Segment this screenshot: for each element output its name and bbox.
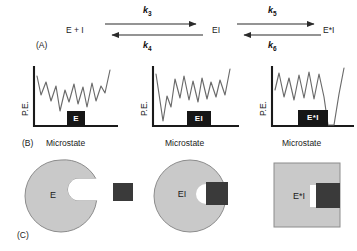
energy-landscape-ei: P.E. EI Microstate [129,64,241,150]
inhibitor-square-bound-tight [316,183,340,208]
cartoon-e-star-i-complex: E*I [272,161,346,231]
rate-constant-k3: k3 [143,5,152,17]
equilibrium-arrows-step-1 [104,20,204,42]
cartoon-ei-complex: EI [152,158,232,234]
equilibrium-arrows-step-2 [236,20,322,42]
plot-xlabel-e: Microstate [46,138,85,148]
rate-constant-k4: k4 [143,40,152,52]
inhibitor-square-bound-partial [206,182,228,205]
panel-c-structural-cartoons: (C) E /* label text injected below from … [0,150,357,251]
state-chip-ei: EI [187,111,211,126]
figure-root: (A) E + I EI E*I k3 k4 k5 k6 [0,0,357,251]
panel-label-a: (A) [36,40,47,50]
energy-landscape-e-star-i: P.E. E*I Microstate [248,64,356,150]
state-chip-e: E [67,111,85,126]
energy-landscape-e: P.E. E Microstate [10,64,120,150]
plot-xlabel-ei: Microstate [165,138,204,148]
cartoon-label-e-star-i: E*I [293,191,305,201]
cartoon-label-ei: EI [178,189,187,199]
species-label-e-plus-i: E + I [66,25,84,35]
panel-a-reaction-scheme: (A) E + I EI E*I k3 k4 k5 k6 [0,0,357,60]
cartoon-label-e: E [50,190,56,200]
rate-constant-k5: k5 [268,5,277,17]
plot-xlabel-e-star-i: Microstate [282,138,321,148]
state-chip-label-e: E [73,115,79,123]
state-chip-label-e-star-i: E*I [307,114,319,122]
species-label-e-star-i: E*I [323,25,334,35]
rate-constant-k6: k6 [268,40,277,52]
panel-b-energy-landscapes: (B) P.E. E Microstate P.E. EI [0,60,357,150]
inhibitor-square-free [113,183,133,201]
cartoon-free-enzyme: E [23,158,103,234]
species-label-ei: EI [212,25,220,35]
state-chip-e-star-i: E*I [298,110,328,126]
state-chip-label-ei: EI [195,115,203,123]
